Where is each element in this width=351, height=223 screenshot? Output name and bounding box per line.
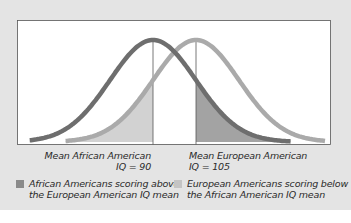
distribution-plot <box>0 0 351 160</box>
legend-text: European Americans scoring below the Afr… <box>187 178 348 200</box>
mean-ea-label-line1: Mean European American <box>189 150 329 161</box>
legend-swatch-light <box>174 180 182 188</box>
plot-area <box>18 21 331 145</box>
legend-swatch-dark <box>16 180 24 188</box>
legend-item-european-below: European Americans scoring below the Afr… <box>174 178 348 200</box>
mean-aa-label: Mean African American IQ = 90 <box>40 150 151 172</box>
mean-ea-label: Mean European American IQ = 105 <box>189 150 329 172</box>
mean-ea-label-line2: IQ = 105 <box>189 161 329 172</box>
legend-item-african-above: African Americans scoring above the Euro… <box>16 178 179 200</box>
legend-text: African Americans scoring above the Euro… <box>29 178 179 200</box>
mean-aa-label-line1: Mean African American <box>40 150 151 161</box>
mean-aa-label-line2: IQ = 90 <box>40 161 151 172</box>
